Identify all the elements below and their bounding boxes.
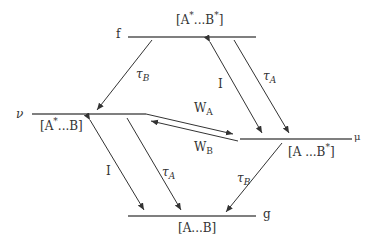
label-nu-g-I: I	[106, 165, 111, 177]
label-nu-g-tauA: τA	[162, 166, 175, 178]
label-WB: WB	[194, 141, 213, 153]
level-state-f: [A*...B*]	[176, 14, 223, 26]
arrow-nu-mu-WA	[146, 114, 233, 134]
arrow-f-mu-tauA	[234, 40, 289, 133]
level-name-mu: μ	[354, 132, 361, 142]
label-f-nu-tauB: τB	[136, 68, 149, 80]
arrow-nu-g-tauA	[127, 118, 181, 210]
level-state-nu: [A*...B]	[40, 120, 83, 132]
label-mu-g-tauB: τB	[237, 172, 250, 184]
level-name-nu: ν	[16, 108, 23, 120]
level-state-g: [A...B]	[178, 222, 216, 234]
level-name-g: g	[263, 208, 271, 220]
arrow-mu-g-tauB	[226, 143, 282, 212]
energy-transfer-diagram: f [A*...B*] ν [A*...B] μ [A ...B*] g [A.…	[0, 0, 374, 249]
label-f-mu-tauA: τA	[263, 70, 276, 82]
label-f-mu-I: I	[218, 78, 223, 90]
level-name-f: f	[116, 28, 120, 40]
label-WA: WA	[194, 102, 213, 114]
arrow-mu-nu-WB	[151, 121, 238, 141]
level-state-mu: [A ...B*]	[288, 146, 335, 158]
